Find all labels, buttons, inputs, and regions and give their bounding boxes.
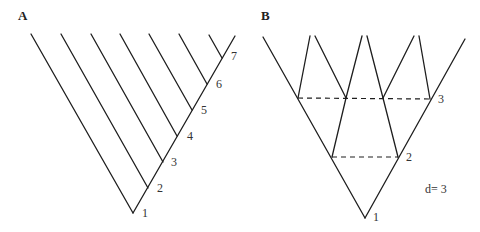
depth-line-3	[298, 98, 430, 99]
depth-annotation: d= 3	[425, 182, 447, 196]
node-label-a5: 5	[201, 103, 207, 117]
tree-a-leaf-3	[91, 34, 163, 162]
tree-b-l3-b	[315, 36, 346, 98]
node-label-a4: 4	[187, 129, 193, 143]
panel-a: A 1 2 3 4 5 6 7	[18, 8, 237, 220]
node-label-b2: 2	[406, 150, 412, 164]
panel-a-label: A	[18, 8, 28, 23]
node-label-a7: 7	[231, 49, 237, 63]
tree-a-spine	[133, 36, 235, 213]
node-label-a3: 3	[171, 155, 177, 169]
tree-a-leaf-4	[120, 34, 177, 136]
tree-a-leaf-6	[179, 34, 207, 84]
tree-b-l3-e	[383, 36, 414, 98]
tree-b-l3-f	[419, 36, 430, 99]
node-label-b3: 3	[438, 92, 444, 106]
tree-b-l2-right-inner	[383, 98, 398, 157]
node-label-a2: 2	[157, 181, 163, 195]
tree-b-l2-left-inner	[332, 98, 346, 157]
tree-b-right-outer	[365, 39, 465, 218]
panel-b: B 1 2 3 d= 3	[261, 8, 465, 224]
tree-a-leaf-7	[209, 35, 222, 58]
tree-b-left-outer	[263, 37, 365, 218]
node-label-b1: 1	[373, 210, 379, 224]
tree-a-leaf-1	[31, 34, 133, 213]
node-label-a6: 6	[216, 77, 222, 91]
pectinate-tree	[31, 34, 235, 213]
phylogeny-figure: A 1 2 3 4 5 6 7 B	[0, 0, 480, 232]
tree-b-l3-d	[367, 36, 383, 98]
panel-b-label: B	[261, 8, 270, 23]
tree-b-l3-c	[346, 36, 362, 98]
tree-b-l3-a	[298, 36, 310, 98]
node-label-a1: 1	[142, 206, 148, 220]
